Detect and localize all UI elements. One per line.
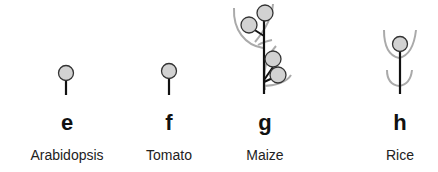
panel-maize: g Maize <box>215 0 315 172</box>
panel-tomato: f Tomato <box>119 0 219 172</box>
panel-letter: g <box>215 110 315 136</box>
panel-letter: h <box>350 110 438 136</box>
panel-letter: f <box>119 110 219 136</box>
panel-rice: h Rice <box>350 0 438 172</box>
rice-spikelet-icon <box>350 0 438 110</box>
species-label: Maize <box>215 147 315 163</box>
tomato-flower-icon <box>119 0 219 110</box>
species-label: Arabidopsis <box>17 147 117 163</box>
panel-letter: e <box>17 110 117 136</box>
panel-arabidopsis: e Arabidopsis <box>17 0 117 172</box>
maize-inflorescence-icon <box>215 0 315 110</box>
species-label: Tomato <box>119 147 219 163</box>
arabidopsis-flower-icon <box>17 0 117 110</box>
species-label: Rice <box>350 147 438 163</box>
